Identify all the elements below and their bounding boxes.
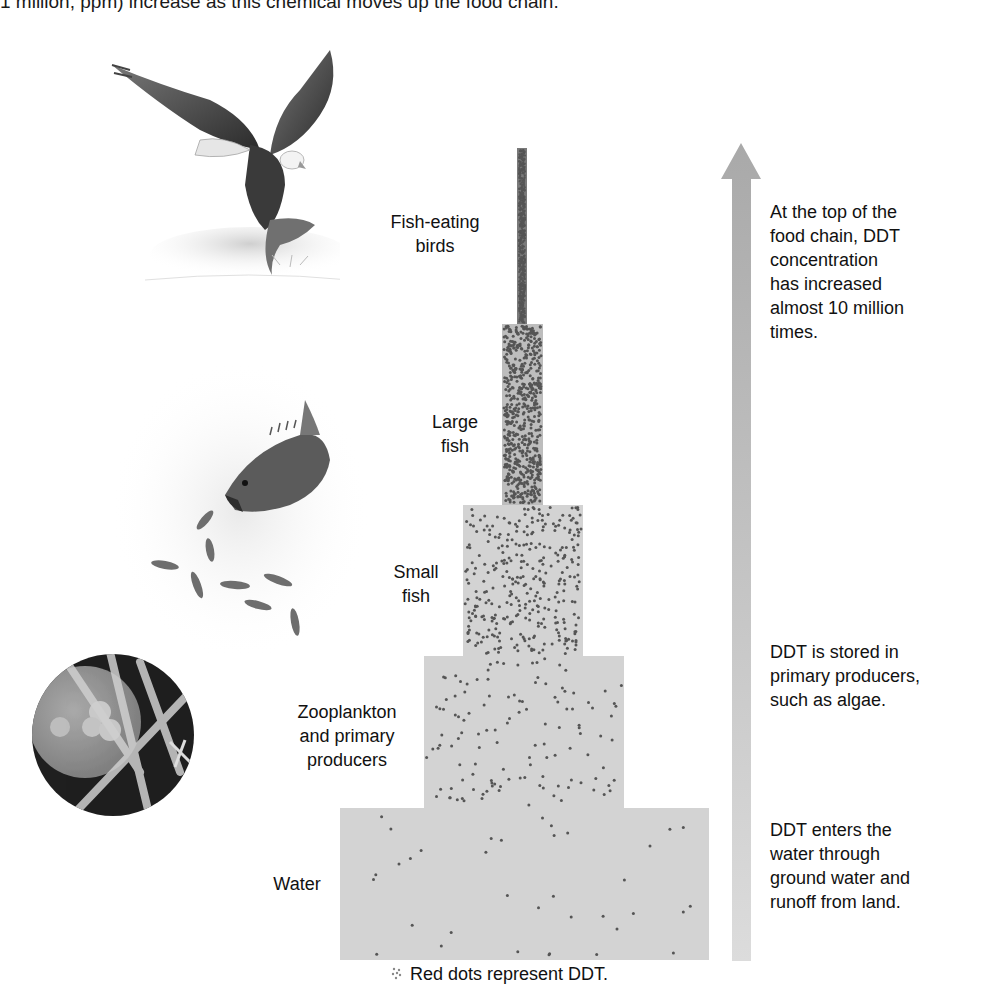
note-line: water through (770, 842, 910, 866)
legend-text: Red dots represent DDT. (410, 964, 608, 984)
note-line: ground water and (770, 866, 910, 890)
legend: Red dots represent DDT. (390, 962, 608, 986)
arrow-up-icon (721, 143, 761, 961)
tier-zooplankton (424, 656, 624, 808)
tier-label-zooplankton: Zooplankton and primary producers (282, 700, 412, 772)
label-line: birds (375, 234, 495, 258)
ddt-dots (517, 148, 527, 325)
tier-water (340, 808, 709, 960)
note-line: runoff from land. (770, 890, 910, 914)
note-middle: DDT is stored in primary producers, such… (770, 640, 920, 712)
note-line: concentration (770, 248, 904, 272)
ddt-dots (463, 505, 583, 656)
tier-small-fish (463, 505, 583, 656)
fish-illustration (110, 340, 370, 660)
label-line: and primary (282, 724, 412, 748)
note-top: At the top of the food chain, DDT concen… (770, 200, 904, 344)
note-line: has increased (770, 272, 904, 296)
label-line: Small (376, 560, 456, 584)
note-line: times. (770, 320, 904, 344)
label-line: Zooplankton (282, 700, 412, 724)
tier-large-fish (502, 324, 543, 505)
label-line: fish (376, 584, 456, 608)
note-line: such as algae. (770, 688, 920, 712)
eagle-illustration (100, 45, 340, 285)
ddt-dots (424, 656, 624, 808)
intro-text: 1 million, ppm) increase as this chemica… (0, 0, 984, 13)
tier-label-water: Water (262, 872, 332, 896)
label-line: fish (415, 434, 495, 458)
note-bottom: DDT enters the water through ground wate… (770, 818, 910, 914)
algae-illustration (30, 652, 196, 818)
note-line: food chain, DDT (770, 224, 904, 248)
note-line: DDT enters the (770, 818, 910, 842)
tier-fish-eating-birds (517, 148, 527, 325)
dots-legend-icon (390, 966, 404, 982)
note-line: primary producers, (770, 664, 920, 688)
note-line: almost 10 million (770, 296, 904, 320)
label-line: Large (415, 410, 495, 434)
label-line: Fish-eating (375, 210, 495, 234)
tier-label-small-fish: Small fish (376, 560, 456, 608)
note-line: At the top of the (770, 200, 904, 224)
tier-label-fish-eating-birds: Fish-eating birds (375, 210, 495, 258)
note-line: DDT is stored in (770, 640, 920, 664)
concentration-arrow (721, 143, 761, 961)
ddt-dots (340, 808, 709, 960)
label-line: Water (262, 872, 332, 896)
ddt-dots (502, 324, 543, 505)
tier-label-large-fish: Large fish (415, 410, 495, 458)
label-line: producers (282, 748, 412, 772)
